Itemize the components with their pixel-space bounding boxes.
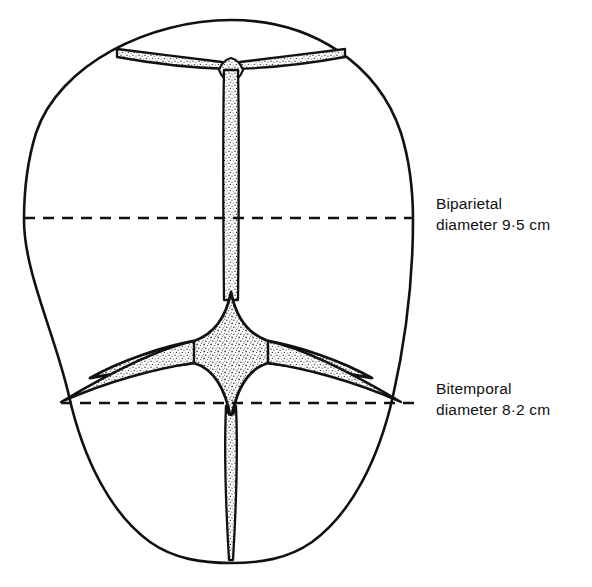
fetal-skull-diagram <box>0 0 592 587</box>
bitemporal-label-line1: Bitemporal <box>436 378 550 399</box>
biparietal-label-line2: diameter 9·5 cm <box>436 214 550 235</box>
bitemporal-label: Bitemporal diameter 8·2 cm <box>436 378 550 420</box>
sagittal-suture <box>223 70 239 300</box>
skull-outline <box>24 20 413 563</box>
sagittal-suture-lower <box>225 406 237 560</box>
biparietal-label-line1: Biparietal <box>436 193 550 214</box>
biparietal-label: Biparietal diameter 9·5 cm <box>436 193 550 235</box>
bitemporal-label-line2: diameter 8·2 cm <box>436 399 550 420</box>
